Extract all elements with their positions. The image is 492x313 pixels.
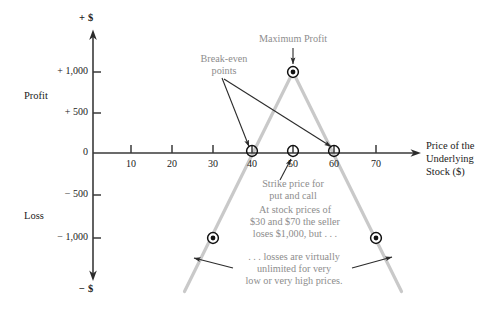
annotation-strike-line1: Strike price for <box>228 178 358 190</box>
annotation-loss-line1: At stock prices of <box>222 204 368 216</box>
x-tick-label-70: 70 <box>361 158 391 170</box>
y-tick-label-0: 0 <box>26 146 88 158</box>
x-tick-label-30: 30 <box>198 158 228 170</box>
annotation-break-even-line1: Break-even <box>178 53 270 65</box>
x-axis-title-line1: Price of the <box>426 139 474 152</box>
loss-region-label: Loss <box>24 210 44 222</box>
annotation-maximum-profit: Maximum Profit <box>234 33 352 45</box>
y-axis-bottom-label: − $ <box>79 283 93 295</box>
annotation-unlimited-line3: low or very high prices. <box>218 275 370 287</box>
x-tick-label-60: 60 <box>319 158 349 170</box>
annotation-loss-line3: loses $1,000, but . . . <box>222 228 368 240</box>
x-axis-title-line3: Stock ($) <box>426 165 465 178</box>
breakeven-arrow-left <box>222 78 249 147</box>
marker-maximum-profit <box>288 67 299 78</box>
y-tick-label-minus1000: − 1,000 <box>26 231 88 243</box>
annotation-strike-line2: put and call <box>228 190 358 202</box>
marker-loss-at-70 <box>371 233 382 244</box>
y-tick-label-1000: + 1,000 <box>26 65 88 77</box>
breakeven-arrow-right <box>224 79 331 147</box>
y-tick-label-minus500: − 500 <box>26 188 88 200</box>
annotation-unlimited-line1: . . . losses are virtually <box>218 251 370 263</box>
annotation-unlimited-line2: unlimited for very <box>218 263 370 275</box>
payoff-chart-figure: + $ − $ Profit Loss + 1,000 + 500 0 − 50… <box>0 0 492 313</box>
profit-region-label: Profit <box>24 90 48 102</box>
annotation-loss-line2: $30 and $70 the seller <box>222 216 368 228</box>
y-axis-top-label: + $ <box>79 12 93 24</box>
x-tick-label-50: 50 <box>278 158 308 170</box>
annotation-break-even-line2: points <box>178 65 270 77</box>
y-tick-label-500: + 500 <box>26 106 88 118</box>
x-axis-title-line2: Underlying <box>426 152 474 165</box>
marker-loss-at-30 <box>208 233 219 244</box>
x-tick-label-40: 40 <box>237 158 267 170</box>
x-tick-label-10: 10 <box>116 158 146 170</box>
x-tick-label-20: 20 <box>157 158 187 170</box>
